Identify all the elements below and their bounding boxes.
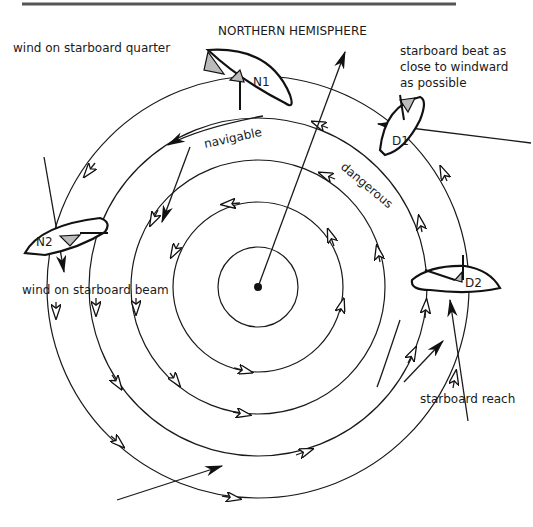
flow-arrow-icon bbox=[318, 124, 328, 128]
wind-arrow-icon bbox=[377, 320, 400, 387]
boat-label-n2: N2 bbox=[36, 235, 53, 249]
caption-n2: wind on starboard beam bbox=[22, 283, 169, 297]
boat-label-d2: D2 bbox=[465, 276, 482, 290]
diagram-title: NORTHERN HEMISPHERE bbox=[218, 24, 367, 38]
wind-arrows bbox=[44, 116, 531, 500]
wind-arrow-icon bbox=[162, 147, 190, 222]
boat-label-n1: N1 bbox=[253, 75, 270, 89]
boat-d1: D1 bbox=[380, 95, 424, 155]
flow-arrow-icon bbox=[325, 175, 335, 179]
flow-arrow-icon bbox=[443, 172, 447, 181]
zone-label-navigable: navigable bbox=[203, 125, 263, 151]
boat-n2: N2 bbox=[25, 218, 108, 255]
caption-d2: starboard reach bbox=[420, 392, 515, 406]
flow-arrow-icon bbox=[408, 353, 413, 363]
caption-d1-line3: as possible bbox=[400, 76, 467, 90]
boat-label-d1: D1 bbox=[392, 134, 409, 148]
caption-d1-line1: starboard beat as bbox=[400, 44, 506, 58]
flow-arrow-icon bbox=[420, 222, 422, 232]
hull-n1 bbox=[208, 50, 292, 106]
flow-arrows bbox=[56, 124, 455, 498]
flow-arrow-icon bbox=[378, 252, 380, 262]
hurricane-sailing-diagram: NORTHERN HEMISPHERE bbox=[0, 0, 533, 527]
flow-arrow-icon bbox=[174, 243, 179, 252]
caption-d1-line2: close to windward bbox=[400, 60, 508, 74]
wind-arrow-icon bbox=[117, 466, 222, 500]
flow-arrow-icon bbox=[453, 377, 455, 388]
zone-label-dangerous: dangerous bbox=[338, 160, 396, 212]
caption-n1: wind on starboard quarter bbox=[13, 41, 170, 55]
flow-arrow-icon bbox=[88, 163, 95, 172]
